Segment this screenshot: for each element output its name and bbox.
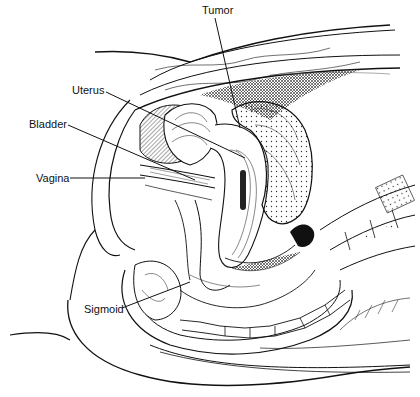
pelvis-illustration bbox=[0, 0, 420, 397]
vagina-label: Vagina bbox=[36, 172, 69, 184]
tumor-leader-line bbox=[215, 18, 240, 128]
sigmoid-label: Sigmoid bbox=[84, 303, 124, 315]
uterus-label: Uterus bbox=[72, 84, 104, 96]
tumor-label: Tumor bbox=[202, 4, 233, 16]
anatomy-diagram: Tumor Uterus Bladder Vagina Sigmoid bbox=[0, 0, 420, 397]
bladder-label: Bladder bbox=[29, 118, 67, 130]
